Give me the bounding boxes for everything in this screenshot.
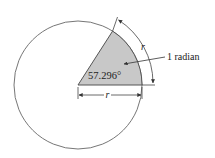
extension-line-top bbox=[113, 17, 118, 31]
callout-label: 1 radian bbox=[167, 51, 200, 62]
radian-diagram: r r 1 radian 57.296° bbox=[0, 0, 215, 158]
angle-label: 57.296° bbox=[88, 70, 121, 81]
radius-label: r bbox=[106, 89, 110, 100]
arc-label: r bbox=[141, 41, 145, 52]
